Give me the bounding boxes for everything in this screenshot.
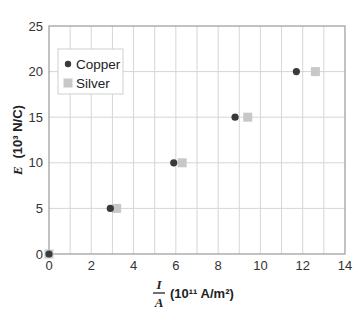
y-tick-label: 0 <box>36 247 43 262</box>
square-marker-icon <box>64 79 73 88</box>
y-tick-label: 25 <box>29 19 43 34</box>
x-axis-units: (10¹¹ A/m²) <box>170 286 234 301</box>
data-point-silver <box>243 113 252 122</box>
y-tick-label: 20 <box>29 64 43 79</box>
x-axis-ticks: 02468101214 <box>45 258 352 273</box>
data-point-silver <box>311 67 320 76</box>
x-axis-label: I A (10¹¹ A/m²) <box>153 277 234 310</box>
y-axis-variable: E <box>10 166 25 176</box>
svg-text:E (10³ N/C): E (10³ N/C) <box>10 105 25 176</box>
x-tick-label: 0 <box>45 258 52 273</box>
data-point-copper <box>45 250 52 257</box>
legend: Copper Silver <box>58 49 123 94</box>
x-tick-label: 12 <box>295 258 309 273</box>
circle-marker-icon <box>65 61 71 67</box>
x-tick-label: 4 <box>130 258 137 273</box>
data-point-silver <box>178 158 187 167</box>
x-tick-label: 2 <box>88 258 95 273</box>
legend-label-copper: Copper <box>76 57 121 72</box>
x-axis-denominator: A <box>154 295 164 310</box>
x-tick-label: 10 <box>253 258 267 273</box>
scatter-chart: 02468101214 0510152025 Copper Silver E (… <box>0 0 363 315</box>
y-axis-ticks: 0510152025 <box>29 19 43 262</box>
x-axis-numerator: I <box>155 277 162 292</box>
x-tick-label: 8 <box>215 258 222 273</box>
x-tick-label: 14 <box>338 258 352 273</box>
x-tick-label: 6 <box>172 258 179 273</box>
y-tick-label: 5 <box>36 201 43 216</box>
data-point-copper <box>293 68 300 75</box>
data-point-copper <box>107 205 114 212</box>
y-tick-label: 15 <box>29 110 43 125</box>
y-tick-label: 10 <box>29 155 43 170</box>
legend-label-silver: Silver <box>76 76 110 91</box>
data-point-copper <box>231 114 238 121</box>
y-axis-units: (10³ N/C) <box>10 105 25 158</box>
data-point-copper <box>170 159 177 166</box>
y-axis-label: E (10³ N/C) <box>10 105 25 176</box>
